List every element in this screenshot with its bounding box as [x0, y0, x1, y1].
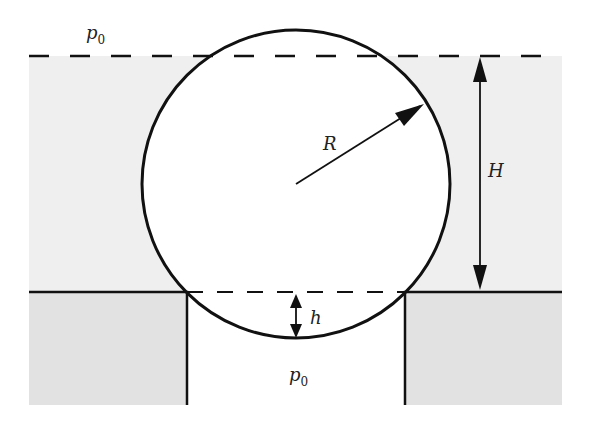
pressure-label-top: p0: [86, 22, 105, 47]
radius-arrowhead-icon: [395, 104, 424, 126]
pressure-subscript: 0: [301, 375, 309, 389]
liquid-layer: [29, 56, 562, 292]
diagram-svg: [0, 0, 590, 421]
pressure-subscript: 0: [98, 33, 106, 47]
right-solid-block: [405, 292, 562, 405]
pressure-symbol: p: [86, 22, 98, 43]
diagram-canvas: p0 p0 R H h: [0, 0, 590, 421]
depth-label: H: [488, 160, 504, 181]
pressure-symbol: p: [289, 364, 301, 385]
left-solid-block: [29, 292, 187, 405]
radius-label: R: [323, 133, 337, 154]
protrusion-arrowhead-down-icon: [290, 324, 302, 338]
pressure-label-bottom: p0: [289, 364, 308, 389]
protrusion-label: h: [310, 307, 322, 328]
protrusion-arrowhead-up-icon: [290, 294, 302, 308]
